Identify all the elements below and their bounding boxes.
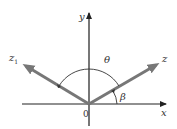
- z1-vector-label: z1: [8, 52, 18, 65]
- theta-label: θ: [104, 54, 110, 65]
- beta-label: β: [119, 91, 126, 102]
- origin-label: 0: [83, 109, 89, 119]
- x-axis-label: x: [161, 107, 167, 118]
- beta-arc: [113, 91, 117, 104]
- z-vector-label: z: [161, 53, 168, 64]
- coordinate-diagram: y x 0 z z1 θ β: [0, 0, 177, 129]
- y-axis-label: y: [78, 11, 85, 22]
